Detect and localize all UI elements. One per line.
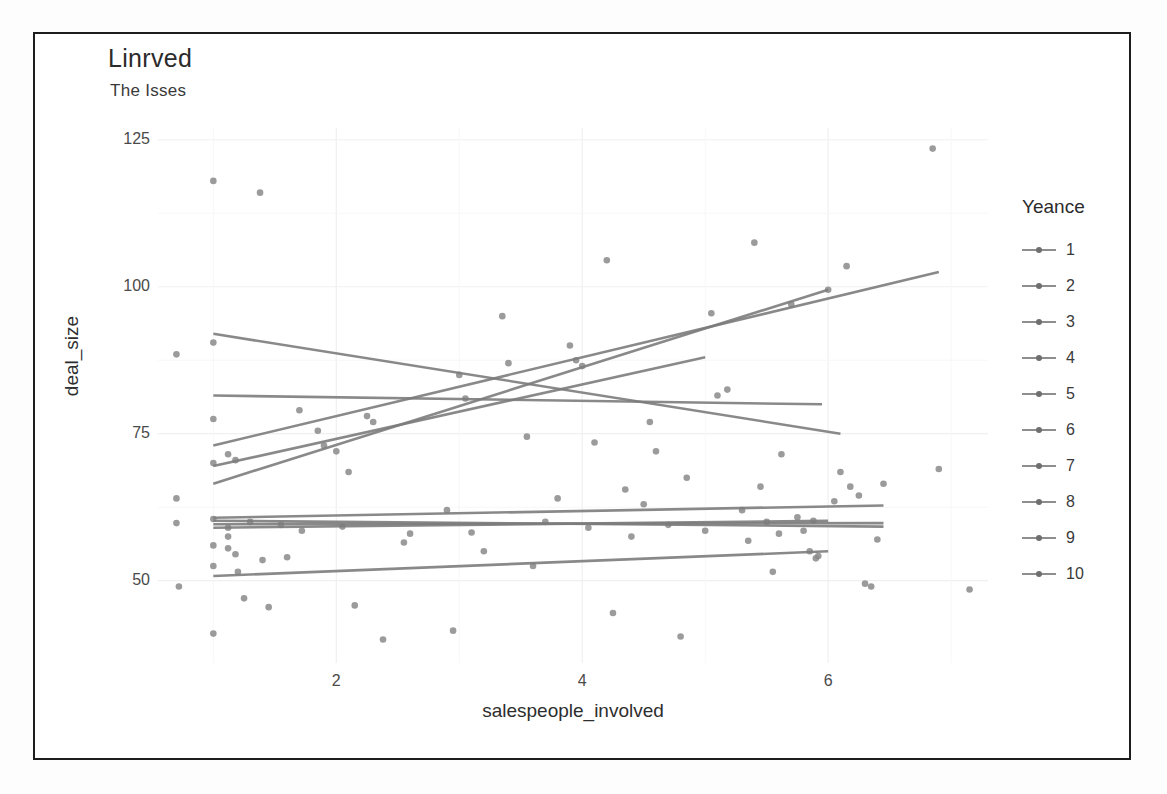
legend-item-label: 4 [1066,349,1075,367]
legend: Yeance 12345678910 [1022,196,1127,592]
legend-item-label: 3 [1066,313,1075,331]
x-tick-label: 4 [578,672,587,690]
legend-key-icon [1022,459,1056,473]
legend-item-label: 9 [1066,529,1075,547]
legend-item-label: 7 [1066,457,1075,475]
legend-item[interactable]: 2 [1022,268,1127,304]
legend-item[interactable]: 10 [1022,556,1127,592]
legend-item[interactable]: 7 [1022,448,1127,484]
legend-item[interactable]: 9 [1022,520,1127,556]
y-tick-label: 75 [132,424,150,442]
legend-key-icon [1022,531,1056,545]
legend-item[interactable]: 8 [1022,484,1127,520]
legend-key-icon [1022,279,1056,293]
legend-key-icon [1022,387,1056,401]
scatter-points [173,145,973,643]
plot-svg [158,128,988,663]
legend-key-icon [1022,423,1056,437]
chart-screenshot: Linrved The Isses 5075100125 246 deal_si… [0,0,1167,794]
y-tick-label: 100 [123,277,150,295]
x-axis-ticks: 246 [158,672,988,696]
legend-item[interactable]: 3 [1022,304,1127,340]
x-tick-label: 6 [824,672,833,690]
y-tick-label: 50 [132,571,150,589]
legend-item-label: 8 [1066,493,1075,511]
x-axis-label: salespeople_involved [158,700,988,722]
legend-item[interactable]: 4 [1022,340,1127,376]
legend-item[interactable]: 6 [1022,412,1127,448]
y-axis-label: deal_size [61,276,83,436]
legend-key-icon [1022,495,1056,509]
legend-item[interactable]: 1 [1022,232,1127,268]
legend-key-icon [1022,243,1056,257]
legend-item-label: 10 [1066,565,1084,583]
legend-key-icon [1022,315,1056,329]
legend-items: 12345678910 [1022,232,1127,592]
chart-title: Linrved [108,44,192,73]
legend-title: Yeance [1022,196,1127,218]
x-tick-label: 2 [332,672,341,690]
trend-lines [213,272,938,576]
legend-item[interactable]: 5 [1022,376,1127,412]
legend-key-icon [1022,351,1056,365]
legend-key-icon [1022,567,1056,581]
legend-item-label: 5 [1066,385,1075,403]
y-axis-ticks: 5075100125 [88,128,150,663]
y-tick-label: 125 [123,130,150,148]
plot-panel [158,128,988,663]
chart-subtitle: The Isses [110,81,186,101]
legend-item-label: 2 [1066,277,1075,295]
legend-item-label: 6 [1066,421,1075,439]
legend-item-label: 1 [1066,241,1075,259]
